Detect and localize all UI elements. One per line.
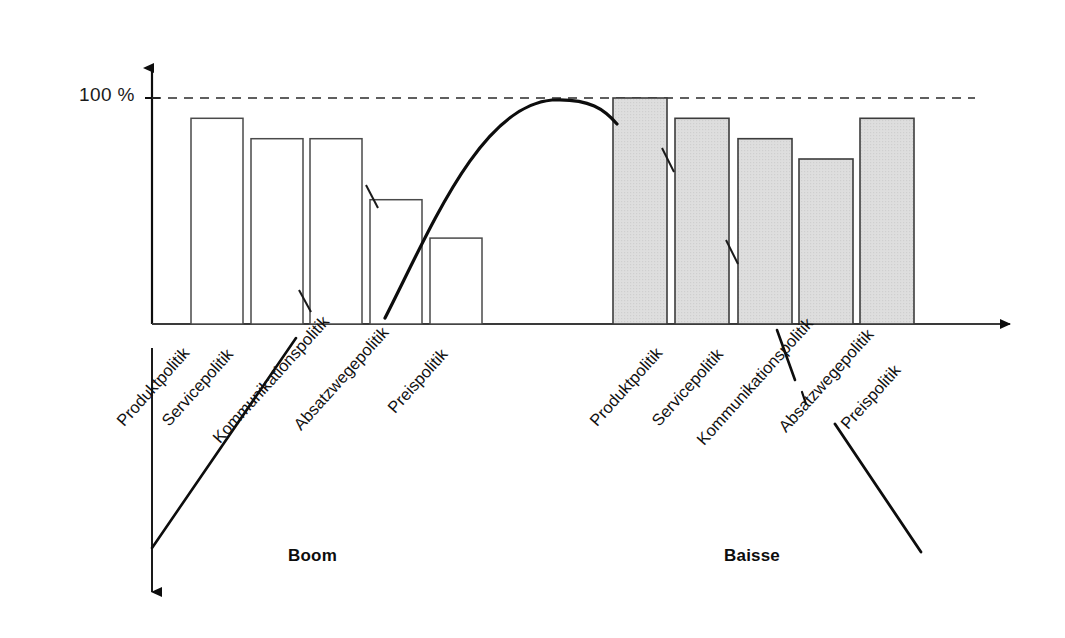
bar-baisse-kommunikationspolitik — [738, 139, 792, 324]
bar-group-boom — [191, 118, 482, 324]
bar-boom-preispolitik — [430, 238, 482, 324]
bar-baisse-preispolitik — [860, 118, 914, 324]
leader-line-right-diagonal — [835, 424, 921, 552]
figure-root: 100 % Boom Baisse — [0, 0, 1065, 638]
bar-baisse-produktpolitik — [613, 98, 667, 324]
bar-baisse-absatzwegepolitik — [799, 159, 853, 324]
bar-boom-produktpolitik — [191, 118, 243, 324]
bar-boom-kommunikationspolitik — [310, 139, 362, 324]
bar-baisse-servicepolitik — [675, 118, 729, 324]
bar-group-baisse — [613, 98, 914, 324]
bar-boom-servicepolitik — [251, 139, 303, 324]
chart-canvas — [0, 0, 1065, 638]
